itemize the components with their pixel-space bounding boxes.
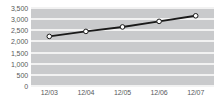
data-point-marker bbox=[193, 14, 198, 19]
y-axis: 05001,0001,5002,0002,5003,0003,500 bbox=[0, 0, 30, 101]
data-point-marker bbox=[120, 25, 125, 30]
series-line-group bbox=[31, 8, 214, 86]
x-axis: 12/0312/0412/0512/0612/07 bbox=[31, 88, 214, 101]
y-axis-tick-label: 3,500 bbox=[11, 5, 28, 12]
y-axis-tick-label: 2,500 bbox=[11, 27, 28, 34]
y-axis-tick-label: 3,000 bbox=[11, 16, 28, 23]
y-axis-tick-label: 1,000 bbox=[11, 60, 28, 67]
data-point-marker bbox=[47, 34, 52, 39]
y-axis-tick-label: 0 bbox=[24, 83, 28, 90]
x-axis-tick-label: 12/05 bbox=[114, 89, 131, 97]
line-chart: 05001,0001,5002,0002,5003,0003,500 12/03… bbox=[0, 0, 220, 101]
data-point-marker bbox=[84, 29, 89, 34]
x-axis-tick-label: 12/06 bbox=[151, 89, 168, 97]
y-axis-tick-label: 500 bbox=[17, 71, 28, 78]
x-axis-tick-label: 12/07 bbox=[187, 89, 204, 97]
y-axis-tick-label: 2,000 bbox=[11, 38, 28, 45]
x-axis-tick-label: 12/04 bbox=[77, 89, 94, 97]
data-point-marker bbox=[157, 19, 162, 24]
y-axis-tick-label: 1,500 bbox=[11, 49, 28, 56]
x-axis-tick-label: 12/03 bbox=[41, 89, 58, 97]
plot-area bbox=[31, 8, 214, 86]
